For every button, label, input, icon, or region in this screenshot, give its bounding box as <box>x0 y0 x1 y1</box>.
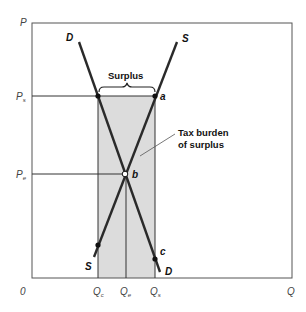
qc-label: Qc <box>93 286 104 298</box>
ps-label: Ps <box>16 91 26 103</box>
point-a-label: a <box>160 91 166 102</box>
point-c <box>152 256 157 261</box>
tax-burden-label-line1: Tax burden <box>178 127 229 138</box>
p-axis-label: P <box>20 17 27 28</box>
q-axis-label: Q <box>287 286 295 297</box>
demand-label-top: D <box>66 32 73 43</box>
pe-label: Pe <box>16 169 27 181</box>
supply-demand-chart: P Q 0 Ps Pe Qc Qe Qs D S S D a b c Surpl… <box>0 0 306 312</box>
supply-label-bottom: S <box>85 261 92 272</box>
tax-burden-label-line2: of surplus <box>178 139 224 150</box>
origin-label: 0 <box>20 286 26 297</box>
demand-label-bottom: D <box>165 266 172 277</box>
surplus-brace <box>99 83 155 92</box>
point-b-label: b <box>132 169 138 180</box>
surplus-label: Surplus <box>108 70 143 81</box>
chart-frame <box>32 23 292 278</box>
qe-label: Qe <box>120 286 132 298</box>
qs-label: Qs <box>150 286 161 298</box>
point-a <box>152 93 157 98</box>
point-supply-qc <box>95 242 100 247</box>
point-b <box>122 171 128 177</box>
supply-label-top: S <box>182 33 189 44</box>
point-left-ps <box>95 93 100 98</box>
point-c-label: c <box>160 246 166 257</box>
